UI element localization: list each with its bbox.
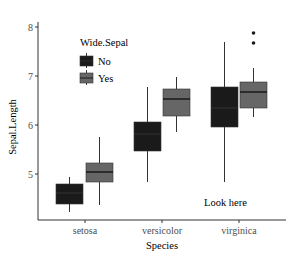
box-virginica-yes <box>240 31 267 117</box>
legend-key-no <box>80 53 93 68</box>
legend-key-yes <box>80 70 93 85</box>
y-ticks: 8 7 6 5 <box>28 22 38 180</box>
legend-title: Wide.Sepal <box>80 37 128 48</box>
y-tick-7: 7 <box>28 71 33 82</box>
box-setosa-yes <box>86 137 113 205</box>
x-tick-virginica: virginica <box>221 225 257 236</box>
legend-label-yes: Yes <box>98 73 113 84</box>
y-tick-8: 8 <box>28 22 33 33</box>
y-tick-6: 6 <box>28 120 33 131</box>
x-axis-title: Species <box>146 240 178 251</box>
outlier-point <box>252 41 256 45</box>
legend-label-no: No <box>98 56 111 67</box>
outlier-point <box>252 31 256 35</box>
y-tick-5: 5 <box>28 169 33 180</box>
box-virginica-no <box>211 42 238 182</box>
x-tick-versicolor: versicolor <box>142 225 183 236</box>
x-tick-setosa: setosa <box>73 225 98 236</box>
box-plot: 8 7 6 5 setosa versicolor virginica Spec… <box>0 0 300 261</box>
box-versicolor-no <box>134 87 161 182</box>
box-setosa-no <box>56 177 83 212</box>
x-ticks: setosa versicolor virginica <box>73 220 257 236</box>
box-versicolor-yes <box>163 77 190 132</box>
annotation-look-here: Look here <box>204 197 247 208</box>
legend: Wide.Sepal No Yes <box>80 37 128 85</box>
y-axis-title: Sepal.Length <box>7 98 18 154</box>
